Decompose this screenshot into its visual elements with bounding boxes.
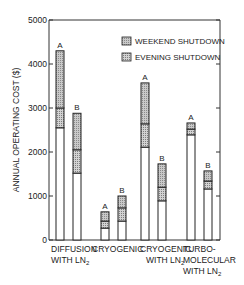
legend-evening-label: EVENING SHUTDOWN [135,53,221,62]
bar-label: A [142,73,148,82]
bar-label: B [159,154,164,163]
x-label-line1: CRYOGENIC [92,244,143,254]
bar-2-B: B [118,186,126,240]
stacked-bar-chart: 010002000300040005000 ABABABAB DIFFUSION… [0,0,244,285]
y-tick-label: 4000 [28,59,47,69]
x-label-line3: WITH LN2 [183,266,222,277]
bar-label: B [205,161,210,170]
x-label-line2: WITH LN2 [146,255,185,266]
bar-3-A: A [141,73,149,240]
x-label-line1: DIFFUSION [51,244,97,254]
x-label-line2: MOLECULAR [183,255,236,265]
y-tick-label: 5000 [28,15,47,25]
legend-weekend-label: WEEKEND SHUTDOWN [135,37,225,46]
bars: ABABABAB [56,41,212,240]
bar-3-B: B [158,154,166,240]
bar-label: A [57,41,63,50]
legend-weekend-swatch [122,37,131,45]
y-tick-label: 2000 [28,147,47,157]
bar-label: B [74,103,79,112]
bar-label: B [119,186,124,195]
bar-4-A: A [187,113,195,240]
legend: WEEKEND SHUTDOWN EVENING SHUTDOWN [122,37,225,62]
bar-label: A [188,113,194,122]
bar-1-A: A [56,41,64,240]
x-label-line2: WITH LN2 [51,255,90,266]
y-tick-label: 1000 [28,191,47,201]
y-tick-label: 3000 [28,103,47,113]
y-axis-label: ANNUAL OPERATING COST ($) [11,68,21,193]
legend-evening-swatch [122,53,131,61]
bar-4-B: B [204,161,212,240]
x-axis-labels: DIFFUSIONWITH LN2CRYOGENICCRYOGENICWITH … [51,244,236,277]
bar-label: A [102,202,108,211]
y-tick-label: 0 [42,235,47,245]
x-label-line1: TURBO- [183,244,216,254]
bar-2-A: A [101,202,109,240]
bar-1-B: B [73,103,81,240]
